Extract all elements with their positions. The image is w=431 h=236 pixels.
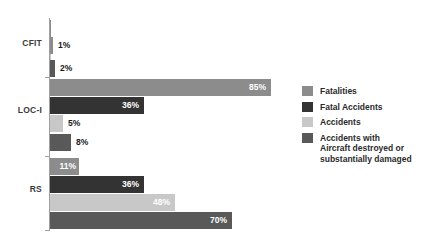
legend-label-fatalities: Fatalities [320, 86, 357, 97]
bar-loci-fatal-accidents: 36% [50, 97, 144, 114]
bar-value-rs-fatalities: 11% [59, 162, 79, 171]
bar-value-loci-fatalities: 85% [249, 83, 271, 92]
bar-value-loci-destroyed: 8% [71, 138, 88, 147]
bar-value-rs-destroyed: 70% [210, 216, 232, 225]
legend-swatch-icon [302, 102, 313, 112]
legend-swatch-icon [302, 117, 313, 127]
bar-row: 85% [50, 79, 271, 96]
bar-row: 1% [50, 37, 70, 54]
bar-value-loci-fatal-accidents: 36% [122, 101, 144, 110]
bar-row: 36% [50, 176, 144, 193]
bar-rs-destroyed: 70% [50, 212, 232, 229]
category-group-rs: RS 11% 36% 48% 70% [0, 158, 290, 230]
bar-row: 5% [50, 115, 80, 132]
legend-item-destroyed: Accidents with Aircraft destroyed or sub… [302, 133, 428, 165]
legend-swatch-icon [302, 86, 313, 96]
bar-rs-fatal-accidents: 36% [50, 176, 144, 193]
bar-value-rs-accidents: 48% [153, 198, 175, 207]
plot-area: CFIT 1% 2% LOC-I 85% [0, 0, 290, 236]
legend-label-fatal-accidents: Fatal Accidents [320, 102, 383, 113]
bar-rs-accidents: 48% [50, 194, 175, 211]
bar-row: 48% [50, 194, 175, 211]
axis-tick [45, 230, 50, 231]
bar-row: 8% [50, 134, 88, 151]
bar-row: 11% [50, 158, 79, 175]
bar-loci-fatalities: 85% [50, 79, 271, 96]
bar-row [50, 20, 54, 37]
legend-label-destroyed: Accidents with Aircraft destroyed or sub… [320, 133, 412, 165]
legend-label-accidents: Accidents [320, 117, 361, 128]
bar-chart: CFIT 1% 2% LOC-I 85% [0, 0, 431, 236]
chart-legend: Fatalities Fatal Accidents Accidents Acc… [302, 86, 428, 169]
legend-item-fatalities: Fatalities [302, 86, 428, 97]
bar-loci-destroyed [50, 134, 71, 151]
bar-cfit-fatalities [50, 20, 51, 37]
category-group-loci: LOC-I 85% 36% 5% 8% [0, 79, 290, 154]
bar-value-rs-fatal-accidents: 36% [122, 180, 144, 189]
axis-tick [45, 156, 50, 157]
category-group-cfit: CFIT 1% 2% [0, 20, 290, 77]
axis-tick [45, 77, 50, 78]
bar-row: 2% [50, 60, 72, 77]
category-label-rs: RS [0, 184, 42, 194]
category-label-cfit: CFIT [0, 38, 42, 48]
bar-row: 70% [50, 212, 232, 229]
bar-row: 36% [50, 97, 144, 114]
legend-item-accidents: Accidents [302, 117, 428, 128]
legend-swatch-icon [302, 133, 313, 143]
bar-loci-accidents [50, 115, 63, 132]
bar-value-loci-accidents: 5% [63, 119, 80, 128]
bar-value-cfit-destroyed: 2% [55, 64, 72, 73]
category-label-loci: LOC-I [0, 105, 42, 115]
bar-rs-fatalities: 11% [50, 158, 79, 175]
bar-value-cfit-fatal-accidents: 1% [53, 41, 70, 50]
legend-item-fatal-accidents: Fatal Accidents [302, 102, 428, 113]
